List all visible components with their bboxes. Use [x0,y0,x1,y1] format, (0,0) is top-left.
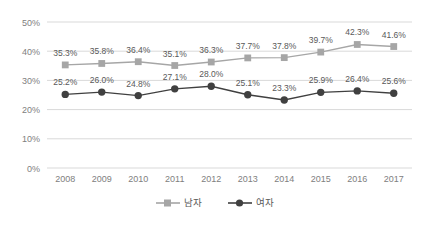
data-label: 27.1% [163,72,188,82]
data-label: 28.0% [199,69,224,79]
legend-item-male[interactable]: 남자 [156,197,202,209]
legend-label-male: 남자 [184,198,202,208]
data-label: 26.4% [345,74,370,84]
x-tick-label: 2016 [347,174,367,184]
data-label: 25.2% [53,77,78,87]
series-line [65,44,394,65]
series-line [65,86,394,100]
y-tick-label: 10% [22,134,40,144]
data-point-marker [62,91,69,98]
data-label: 26.0% [90,75,115,85]
data-label: 37.8% [272,41,297,51]
x-tick-label: 2009 [92,174,112,184]
data-point-marker [208,83,215,90]
data-point-marker [98,88,105,95]
data-point-marker [171,62,178,69]
data-point-marker [354,87,361,94]
x-tick-label: 2015 [311,174,331,184]
data-label: 25.1% [236,78,261,88]
x-tick-label: 2012 [201,174,221,184]
legend-item-female[interactable]: 여자 [228,197,274,209]
y-axis-labels: 0%10%20%30%40%50% [22,18,40,174]
legend-marker-circle-icon [228,197,252,209]
x-tick-label: 2010 [128,174,148,184]
y-tick-label: 40% [22,47,40,57]
data-point-marker [317,89,324,96]
data-point-marker [244,91,251,98]
data-point-marker [390,90,397,97]
x-axis-labels: 2008200920102011201220132014201520162017 [55,174,404,184]
y-tick-label: 0% [27,164,40,174]
data-label: 25.9% [309,75,334,85]
chart-legend: 남자 여자 [0,197,430,209]
data-label: 37.7% [236,41,261,51]
legend-label-female: 여자 [256,198,274,208]
data-point-marker [135,58,142,65]
data-label: 35.3% [53,48,78,58]
y-tick-label: 20% [22,105,40,115]
x-tick-label: 2008 [55,174,75,184]
series-male: 35.3%35.8%36.4%35.1%36.3%37.7%37.8%39.7%… [53,27,406,68]
data-label: 39.7% [309,35,334,45]
series-female: 25.2%26.0%24.8%27.1%28.0%25.1%23.3%25.9%… [53,69,406,103]
data-label: 36.4% [126,45,151,55]
chart-canvas: 0%10%20%30%40%50%20082009201020112012201… [0,0,430,228]
data-label: 35.1% [163,49,188,59]
data-point-marker [244,55,251,62]
y-tick-label: 30% [22,76,40,86]
y-tick-label: 50% [22,18,40,28]
x-tick-label: 2013 [238,174,258,184]
data-label: 41.6% [382,30,407,40]
data-label: 36.3% [199,45,224,55]
data-point-marker [171,85,178,92]
data-label: 24.8% [126,79,151,89]
data-label: 42.3% [345,27,370,37]
data-point-marker [98,60,105,67]
data-label: 35.8% [90,46,115,56]
legend-marker-square-icon [156,197,180,209]
data-point-marker [281,54,288,61]
data-point-marker [135,92,142,99]
data-label: 25.6% [382,76,407,86]
x-tick-label: 2014 [274,174,294,184]
line-chart: 0%10%20%30%40%50%20082009201020112012201… [0,0,430,228]
data-point-marker [208,59,215,66]
data-point-marker [354,41,361,48]
data-point-marker [390,43,397,50]
data-label: 23.3% [272,83,297,93]
data-point-marker [62,62,69,69]
x-tick-label: 2011 [165,174,184,184]
data-point-marker [281,96,288,103]
data-point-marker [317,49,324,56]
x-tick-label: 2017 [384,174,404,184]
